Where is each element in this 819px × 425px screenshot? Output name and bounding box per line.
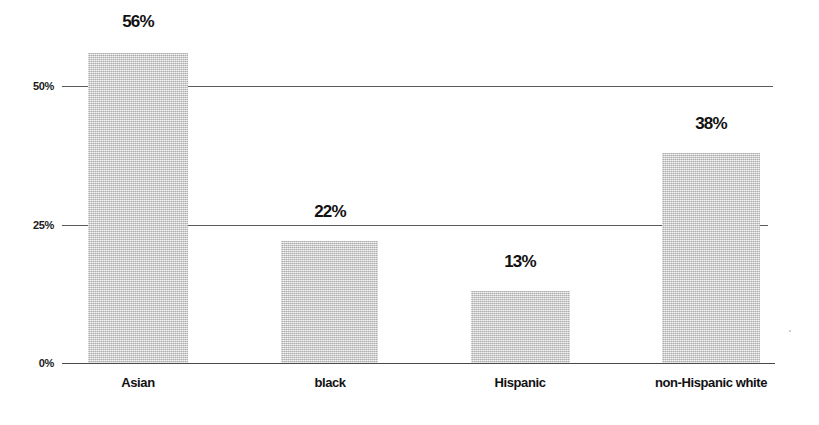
bar-black[interactable]	[281, 241, 378, 363]
bar-asian[interactable]	[88, 53, 188, 363]
y-tick-label-0: 0%	[14, 357, 54, 369]
bar-value-black: 22%	[280, 202, 380, 222]
category-label-black: black	[250, 375, 410, 390]
bar-value-hispanic: 13%	[470, 252, 570, 272]
bar-value-asian: 56%	[88, 12, 188, 32]
plot-area: 50% 25% 0% 56% Asian 22% black 13% Hispa…	[0, 0, 819, 425]
bar-hispanic[interactable]	[471, 291, 570, 363]
bar-chart: 50% 25% 0% 56% Asian 22% black 13% Hispa…	[0, 0, 819, 425]
axis-baseline-0	[62, 363, 775, 364]
category-label-hispanic: Hispanic	[440, 375, 600, 390]
category-label-non-hispanic-white: non-Hispanic white	[631, 375, 791, 390]
category-label-asian: Asian	[58, 375, 218, 390]
scan-artifact	[789, 330, 791, 332]
bar-value-non-hispanic-white: 38%	[661, 114, 761, 134]
y-tick-label-25: 25%	[14, 219, 54, 231]
y-tick-label-50: 50%	[14, 80, 54, 92]
bar-non-hispanic-white[interactable]	[662, 153, 760, 363]
